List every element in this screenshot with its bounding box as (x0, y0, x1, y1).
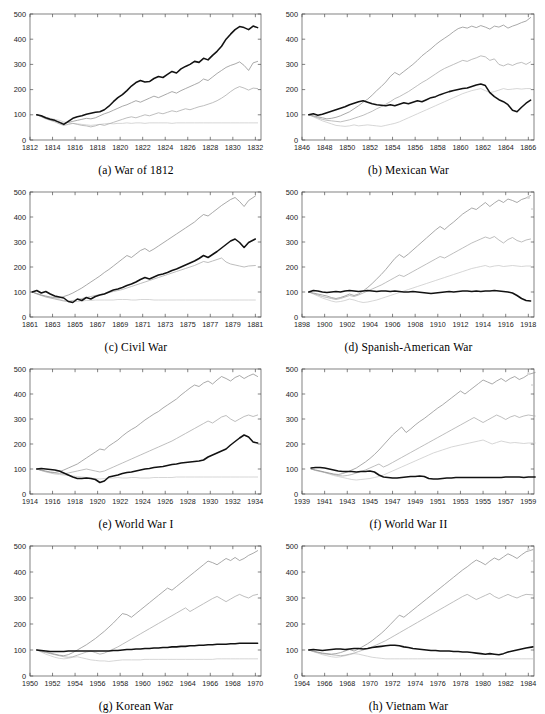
x-tick-label: 1984 (520, 679, 536, 688)
panel-g-plot: 0100200300400500195019521954195619581960… (0, 532, 272, 714)
panel-a: 0100200300400500181218141816181818201822… (0, 0, 272, 178)
y-tick-label: 400 (14, 213, 26, 222)
x-tick-label: 1980 (475, 679, 491, 688)
y-tick-label: 200 (286, 440, 298, 449)
scan-speck-2 (527, 372, 530, 375)
x-tick-label: 1812 (22, 143, 38, 152)
series-gray-dark (37, 551, 258, 656)
panel-a-caption: (a) War of 1812 (0, 164, 272, 176)
x-tick-label: 1877 (202, 320, 218, 329)
y-tick-label: 500 (286, 188, 298, 197)
y-tick-label: 100 (286, 646, 298, 655)
x-tick-label: 1964 (180, 679, 196, 688)
panel-e-plot: 0100200300400500191419161918192019221924… (0, 355, 272, 532)
x-tick-label: 1928 (180, 497, 196, 506)
panel-c: 0100200300400500186118631865186718691871… (0, 178, 272, 355)
x-tick-label: 1902 (339, 320, 355, 329)
y-tick-label: 300 (286, 60, 298, 69)
y-tick-label: 100 (14, 288, 26, 297)
x-tick-label: 1914 (22, 497, 38, 506)
x-tick-label: 1922 (112, 497, 128, 506)
x-tick-label: 1898 (294, 320, 310, 329)
x-tick-label: 1982 (498, 679, 514, 688)
series-black-thick (37, 643, 258, 651)
y-tick-label: 400 (286, 213, 298, 222)
x-tick-label: 1924 (135, 497, 151, 506)
y-tick-label: 200 (286, 263, 298, 272)
x-tick-label: 1860 (452, 143, 468, 152)
y-tick-label: 200 (14, 263, 26, 272)
x-tick-label: 1951 (430, 497, 446, 506)
series-gray-dark (37, 374, 258, 473)
x-tick-label: 1826 (180, 143, 196, 152)
x-tick-label: 1959 (520, 497, 536, 506)
series-gray-mid (309, 593, 533, 655)
y-tick-label: 400 (14, 568, 26, 577)
x-tick-label: 1956 (90, 679, 106, 688)
x-tick-label: 1856 (407, 143, 423, 152)
x-tick-label: 1966 (317, 679, 333, 688)
y-tick-label: 400 (286, 390, 298, 399)
x-tick-label: 1863 (45, 320, 61, 329)
y-tick-label: 100 (14, 646, 26, 655)
x-tick-label: 1978 (452, 679, 468, 688)
x-tick-label: 1814 (45, 143, 61, 152)
x-tick-label: 1976 (430, 679, 446, 688)
panel-d: 0100200300400500189819001902190419061908… (272, 178, 545, 355)
series-black-thick (37, 435, 258, 483)
x-tick-label: 1957 (498, 497, 514, 506)
y-tick-label: 300 (14, 594, 26, 603)
x-tick-label: 1846 (294, 143, 310, 152)
x-tick-label: 1914 (475, 320, 491, 329)
x-tick-label: 1858 (430, 143, 446, 152)
series-gray-dark (309, 196, 531, 299)
x-tick-label: 1816 (67, 143, 83, 152)
x-tick-label: 1910 (430, 320, 446, 329)
x-tick-label: 1875 (180, 320, 196, 329)
x-tick-label: 1865 (67, 320, 83, 329)
x-tick-label: 1970 (247, 679, 263, 688)
y-tick-label: 200 (14, 85, 26, 94)
y-tick-label: 300 (14, 60, 26, 69)
y-tick-label: 100 (14, 110, 26, 119)
x-tick-label: 1939 (294, 497, 310, 506)
war-panels-figure: 0100200300400500181218141816181818201822… (0, 0, 545, 714)
panel-b-plot: 0100200300400500184618481850185218541856… (272, 0, 545, 178)
y-tick-label: 100 (286, 288, 298, 297)
y-tick-label: 400 (286, 35, 298, 44)
series-black-thick (309, 291, 531, 302)
x-tick-label: 1873 (157, 320, 173, 329)
series-gray-mid (37, 415, 258, 474)
x-tick-label: 1900 (317, 320, 333, 329)
series-gray-light (37, 469, 258, 479)
x-tick-label: 1830 (225, 143, 241, 152)
x-tick-label: 1866 (520, 143, 536, 152)
x-tick-label: 1970 (362, 679, 378, 688)
x-tick-label: 1912 (452, 320, 468, 329)
x-tick-label: 1926 (157, 497, 173, 506)
x-tick-label: 1818 (90, 143, 106, 152)
x-tick-label: 1828 (202, 143, 218, 152)
y-tick-label: 500 (286, 365, 298, 374)
scan-speck-1 (531, 208, 533, 210)
y-tick-label: 400 (14, 35, 26, 44)
panel-f-caption: (f) World War II (272, 518, 545, 530)
x-tick-label: 1822 (135, 143, 151, 152)
panel-b-caption: (b) Mexican War (272, 164, 545, 176)
y-tick-label: 100 (286, 465, 298, 474)
y-tick-label: 100 (14, 465, 26, 474)
x-tick-label: 1962 (157, 679, 173, 688)
series-gray-dark (311, 373, 535, 475)
panel-g: 0100200300400500195019521954195619581960… (0, 532, 272, 714)
y-tick-label: 300 (286, 594, 298, 603)
scan-speck-3 (531, 384, 533, 386)
x-tick-label: 1930 (202, 497, 218, 506)
series-black-thick (37, 26, 258, 124)
y-tick-label: 500 (14, 10, 26, 19)
x-tick-label: 1953 (452, 497, 468, 506)
x-tick-label: 1943 (339, 497, 355, 506)
x-tick-label: 1952 (45, 679, 61, 688)
x-tick-label: 1974 (407, 679, 423, 688)
x-tick-label: 1949 (407, 497, 423, 506)
x-tick-label: 1950 (22, 679, 38, 688)
